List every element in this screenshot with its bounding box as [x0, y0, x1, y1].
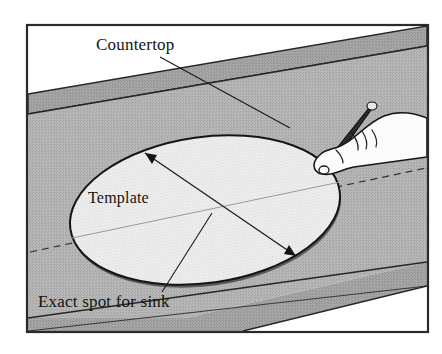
label-exact-spot-for-sink: Exact spot for sink: [38, 292, 170, 311]
scene-contents: [28, 26, 427, 331]
hand-fingertip: [319, 166, 329, 174]
label-template: Template: [88, 189, 149, 207]
pencil-eraser: [367, 102, 377, 110]
illustration-figure: Countertop Template Exact spot for sink: [0, 0, 442, 354]
countertop-template-illustration: Countertop Template Exact spot for sink: [0, 0, 442, 354]
label-countertop: Countertop: [96, 35, 175, 54]
